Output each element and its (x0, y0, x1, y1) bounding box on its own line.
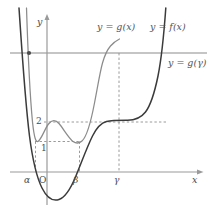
x-axis-label: x (192, 175, 197, 185)
origin-label: O (39, 176, 46, 185)
curve-g-label: y = g(x) (97, 22, 135, 32)
graph-figure: y = g(x) y = f(x) y = g(γ) y x O α β γ 2… (0, 0, 213, 209)
y-axis-arrow-icon (45, 14, 50, 20)
curve-f (19, 8, 166, 200)
y-axis-label: y (37, 17, 42, 27)
y-tick-label-one: 1 (41, 144, 47, 153)
curve-f-label: y = f(x) (150, 22, 186, 32)
y-tick-label-two: 2 (36, 117, 42, 126)
x-tick-label-alpha: α (24, 176, 30, 185)
x-tick-label-beta: β (73, 176, 78, 185)
intersection-dot-marker (27, 51, 31, 55)
horizontal-line-label: y = g(γ) (168, 58, 207, 68)
x-tick-label-gamma: γ (114, 176, 119, 185)
x-axis-arrow-icon (197, 169, 204, 174)
